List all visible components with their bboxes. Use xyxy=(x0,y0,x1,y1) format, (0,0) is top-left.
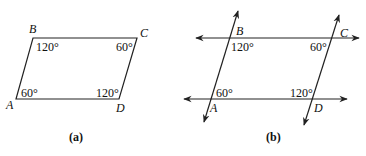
caption-a: (a) xyxy=(69,130,83,144)
caption-b: (b) xyxy=(266,130,281,144)
figure-b: B C A D 120° 60° 60° 120° (b) xyxy=(184,11,359,144)
angle-a: 60° xyxy=(216,86,233,100)
vertex-label-a: A xyxy=(5,98,14,112)
vertex-label-c: C xyxy=(340,26,349,40)
angle-a: 60° xyxy=(21,86,38,100)
angle-b: 120° xyxy=(36,40,59,54)
angle-d: 120° xyxy=(290,86,313,100)
figure-a: B C A D 120° 60° 60° 120° (a) xyxy=(5,22,149,144)
vertex-label-d: D xyxy=(115,101,125,115)
angle-d: 120° xyxy=(96,86,119,100)
vertex-label-a: A xyxy=(209,101,218,115)
vertex-label-b: B xyxy=(236,24,244,38)
figure-canvas: B C A D 120° 60° 60° 120° (a) B C A D 12… xyxy=(0,0,366,156)
vertex-label-b: B xyxy=(29,22,37,36)
vertex-label-d: D xyxy=(313,101,323,115)
angle-b: 120° xyxy=(231,40,254,54)
vertex-label-c: C xyxy=(140,26,149,40)
angle-c: 60° xyxy=(116,40,133,54)
angle-c: 60° xyxy=(310,40,327,54)
